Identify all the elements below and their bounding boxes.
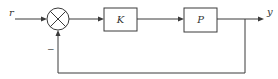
error-signal-arrow xyxy=(69,17,104,22)
block-diagram: r K P y − xyxy=(0,0,278,79)
input-label: r xyxy=(9,7,15,18)
summing-junction xyxy=(47,8,69,30)
plant-block: P xyxy=(184,8,217,32)
input-signal-arrow xyxy=(15,17,47,22)
plant-label: P xyxy=(196,14,204,25)
controller-block: K xyxy=(104,8,137,31)
control-signal-arrow xyxy=(137,17,184,22)
controller-label: K xyxy=(116,14,125,25)
output-label: y xyxy=(266,6,273,17)
output-signal-arrow xyxy=(217,17,264,22)
feedback-sign: − xyxy=(47,44,55,54)
